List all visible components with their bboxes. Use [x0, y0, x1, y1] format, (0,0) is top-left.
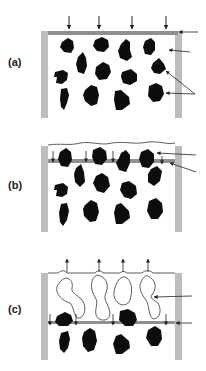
panel-b [41, 142, 196, 232]
right-wall [175, 31, 182, 118]
diagram-canvas [0, 0, 206, 371]
settlement-diagram: (a) (b) (c) [0, 0, 206, 371]
pore-channels [57, 275, 160, 320]
particles [54, 147, 163, 226]
particles [54, 37, 166, 110]
water-surface-line [48, 142, 175, 145]
right-wall [175, 273, 182, 360]
escape-arrows [67, 259, 148, 272]
left-wall [41, 146, 48, 232]
panel-c [41, 259, 192, 360]
top-plate [48, 31, 178, 35]
left-wall [41, 273, 48, 360]
particles [55, 309, 162, 354]
load-arrows [69, 16, 166, 29]
left-wall [41, 31, 48, 118]
right-wall [175, 146, 182, 232]
panel-a [41, 16, 198, 118]
